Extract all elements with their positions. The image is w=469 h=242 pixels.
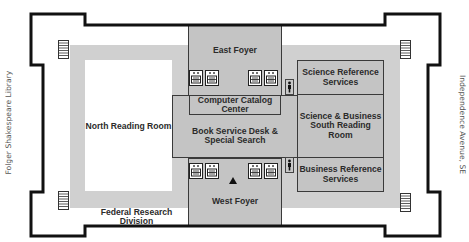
stairs-icon <box>400 40 411 59</box>
stairs-icon <box>400 193 411 212</box>
elevator-icon <box>248 163 262 179</box>
elevator-icon <box>189 163 203 179</box>
restroom-icon <box>285 79 294 95</box>
elevator-icon <box>264 70 278 86</box>
elevator-icon <box>205 163 219 179</box>
elevator-icon <box>205 70 219 86</box>
elevator-icon <box>189 70 203 86</box>
elevator-icon <box>264 163 278 179</box>
you-are-here-marker-icon <box>229 177 237 184</box>
restroom-icon <box>285 157 294 173</box>
stairs-icon <box>58 40 69 59</box>
building-outer-wall <box>0 0 469 242</box>
stairs-icon <box>58 191 69 210</box>
elevator-icon <box>248 70 262 86</box>
